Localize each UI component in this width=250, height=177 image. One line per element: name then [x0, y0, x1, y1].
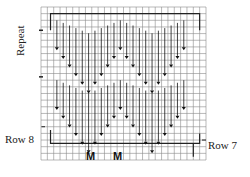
repeat-label: Repeat	[14, 25, 26, 56]
arrow-head	[80, 82, 84, 85]
arrow-head	[156, 82, 160, 85]
arrow-head	[99, 133, 103, 136]
arrow-head	[87, 90, 91, 93]
arrow-head	[182, 47, 186, 50]
arrow-head	[137, 133, 141, 136]
arrow-head	[163, 133, 167, 136]
row-8-label: Row 8	[5, 133, 34, 145]
arrow-head	[150, 150, 154, 153]
row-7-label: Row 7	[208, 139, 237, 151]
arrow-head	[125, 56, 129, 59]
arrow-head	[175, 116, 179, 119]
arrow-head	[137, 73, 141, 76]
arrow-head	[175, 56, 179, 59]
arrow-head	[144, 82, 148, 85]
arrow-head	[112, 56, 116, 59]
arrow-head	[99, 73, 103, 76]
arrow-head	[112, 116, 116, 119]
arrow-head	[150, 90, 154, 93]
arrow-head	[182, 107, 186, 110]
arrow-head	[93, 82, 97, 85]
marker-m-2: M	[113, 150, 122, 162]
arrow-head	[55, 47, 59, 50]
marker-m-1: M	[86, 150, 95, 162]
grid-lines	[41, 7, 206, 160]
arrow-head	[61, 56, 65, 59]
arrow-head	[125, 116, 129, 119]
arrow-head	[74, 73, 78, 76]
arrow-head	[74, 133, 78, 136]
arrow-head	[55, 107, 59, 110]
arrow-head	[61, 116, 65, 119]
arrow-head	[163, 73, 167, 76]
arrow-head	[118, 47, 122, 50]
arrow-head	[118, 107, 122, 110]
